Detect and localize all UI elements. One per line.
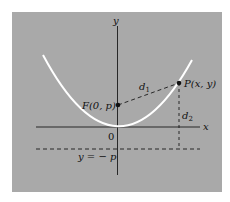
parabola-diagram: y x 0 F(0, p) P(x, y) d1 d2 y = − p — [0, 0, 230, 202]
point-p-label: P(x, y) — [183, 78, 216, 89]
focus-label: F(0, p) — [81, 100, 116, 111]
d2-label: d2 — [182, 110, 193, 123]
directrix-label: y = − p — [77, 151, 117, 162]
y-axis-label: y — [112, 15, 119, 26]
d1-label: d1 — [139, 81, 150, 94]
focus-point — [116, 103, 121, 108]
x-axis-label: x — [203, 121, 209, 132]
origin-label: 0 — [108, 131, 114, 142]
point-p — [177, 81, 182, 86]
